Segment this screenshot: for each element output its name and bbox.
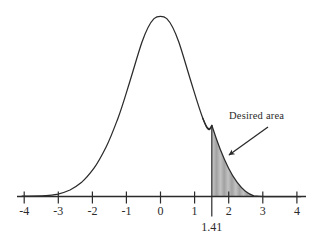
normal-curve-figure: -4 -3 -2 -1 0 1 2 3 4 1.41 Desired area [0, 0, 321, 243]
desired-area-label: Desired area [229, 111, 284, 122]
normal-density-curve [22, 16, 212, 196]
x-tick-label-neg4: -4 [19, 205, 29, 217]
x-tick-label-2: 2 [226, 205, 232, 217]
x-axis-ticks [24, 192, 297, 204]
x-tick-label-4: 4 [294, 205, 300, 217]
x-tick-label-neg1: -1 [121, 205, 131, 217]
desired-area-arrow [229, 127, 268, 155]
x-tick-label-neg2: -2 [87, 205, 97, 217]
x-tick-label-0: 0 [158, 205, 164, 217]
x-tick-label-neg3: -3 [53, 205, 63, 217]
x-tick-label-3: 3 [260, 205, 266, 217]
cut-value-label: 1.41 [201, 221, 222, 233]
x-tick-label-1: 1 [192, 205, 198, 217]
